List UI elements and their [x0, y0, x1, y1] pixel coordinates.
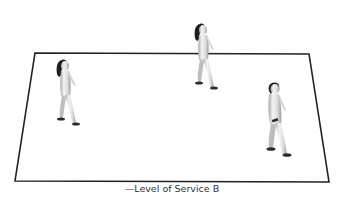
- level-of-service-diagram: [0, 0, 344, 199]
- diagram-caption: —Level of Service B: [0, 183, 344, 195]
